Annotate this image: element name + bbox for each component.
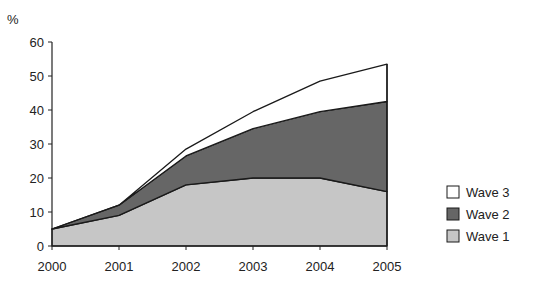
y-tick-label: 10	[30, 205, 44, 220]
legend-swatch	[447, 230, 459, 242]
x-tick-label: 2005	[373, 259, 402, 274]
y-axis-unit-label: %	[7, 12, 19, 27]
x-tick-label: 2001	[105, 259, 134, 274]
legend-swatch	[447, 186, 459, 198]
legend: Wave 3Wave 2Wave 1	[447, 185, 510, 244]
y-tick-label: 30	[30, 137, 44, 152]
legend-label: Wave 3	[466, 185, 510, 200]
y-tick-label: 60	[30, 35, 44, 50]
stacked-area-chart: % 0102030405060 200020012002200320042005…	[0, 0, 533, 288]
x-tick-label: 2003	[239, 259, 268, 274]
legend-item-wave-1: Wave 1	[447, 229, 510, 244]
y-tick-label: 50	[30, 69, 44, 84]
plot-areas	[52, 64, 387, 246]
x-tick-label: 2004	[306, 259, 335, 274]
legend-item-wave-2: Wave 2	[447, 207, 510, 222]
legend-swatch	[447, 208, 459, 220]
x-tick-label: 2002	[172, 259, 201, 274]
x-tick-label: 2000	[38, 259, 67, 274]
legend-label: Wave 2	[466, 207, 510, 222]
legend-label: Wave 1	[466, 229, 510, 244]
legend-item-wave-3: Wave 3	[447, 185, 510, 200]
y-tick-label: 0	[37, 239, 44, 254]
x-axis: 200020012002200320042005	[38, 246, 402, 274]
y-tick-label: 20	[30, 171, 44, 186]
y-axis: % 0102030405060	[7, 12, 52, 254]
y-tick-label: 40	[30, 103, 44, 118]
